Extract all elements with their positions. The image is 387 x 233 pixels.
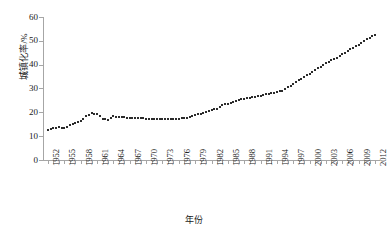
data-point (240, 98, 242, 100)
data-point (55, 127, 57, 129)
x-tick-label-1988: 1988 (248, 149, 257, 166)
data-point (172, 118, 174, 120)
data-point (249, 97, 251, 99)
data-point (369, 37, 371, 39)
data-point (58, 126, 60, 128)
y-tick-label-40: 40 (16, 60, 38, 69)
plot-area (44, 17, 379, 160)
data-point (366, 38, 368, 40)
data-point (279, 90, 281, 92)
data-point (238, 99, 240, 101)
x-tick (195, 161, 196, 164)
data-point (341, 53, 343, 55)
data-point (224, 103, 226, 105)
data-point (221, 104, 223, 106)
data-point (96, 113, 98, 115)
data-point (167, 118, 169, 120)
y-tick-label-50: 50 (16, 36, 38, 45)
data-point (219, 106, 221, 108)
data-point (123, 116, 125, 118)
x-tick (261, 161, 262, 164)
data-point (216, 108, 218, 110)
data-point (339, 55, 341, 57)
x-tick (64, 161, 65, 164)
data-point (61, 127, 63, 129)
y-tick-60 (39, 17, 43, 18)
x-tick (212, 161, 213, 164)
data-point (325, 62, 327, 64)
data-point (254, 96, 256, 98)
data-point (129, 117, 131, 119)
data-point (186, 117, 188, 119)
data-point (194, 114, 196, 116)
data-point (300, 78, 302, 80)
x-tick (146, 161, 147, 164)
data-point (344, 52, 346, 54)
data-point (281, 90, 283, 92)
data-point (82, 118, 84, 120)
data-point (178, 118, 180, 120)
x-tick (244, 161, 245, 164)
x-tick (277, 161, 278, 164)
data-point (314, 69, 316, 71)
data-point (309, 73, 311, 75)
y-tick-50 (39, 41, 43, 42)
x-tick (48, 161, 49, 164)
data-point (374, 34, 376, 36)
data-point (137, 117, 139, 119)
data-point (355, 45, 357, 47)
data-point (99, 115, 101, 117)
x-tick-label-1994: 1994 (281, 149, 290, 166)
data-point (227, 103, 229, 105)
data-point (320, 66, 322, 68)
x-tick (228, 161, 229, 164)
data-point (164, 118, 166, 120)
data-point (170, 118, 172, 120)
data-point (104, 118, 106, 120)
x-tick (179, 161, 180, 164)
x-tick (130, 161, 131, 164)
data-point (175, 118, 177, 120)
data-point (292, 83, 294, 85)
data-point (243, 98, 245, 100)
data-point (303, 76, 305, 78)
data-point (145, 118, 147, 120)
data-point (159, 118, 161, 120)
data-point (246, 97, 248, 99)
x-tick-label-1958: 1958 (85, 149, 94, 166)
data-point (148, 118, 150, 120)
x-tick-label-1997: 1997 (297, 149, 306, 166)
y-tick-30 (39, 88, 43, 89)
data-point (213, 108, 215, 110)
data-point (93, 113, 95, 115)
x-tick (113, 161, 114, 164)
x-tick (97, 161, 98, 164)
data-point (202, 112, 204, 114)
x-tick (326, 161, 327, 164)
x-tick-label-2009: 2009 (363, 149, 372, 166)
data-point (211, 109, 213, 111)
data-point (80, 120, 82, 122)
data-point (260, 95, 262, 97)
data-point (107, 119, 109, 121)
data-point (265, 93, 267, 95)
x-tick-label-1961: 1961 (101, 149, 110, 166)
data-point (298, 79, 300, 81)
y-tick-label-60: 60 (16, 13, 38, 22)
data-point (371, 35, 373, 37)
data-point (142, 117, 144, 119)
data-point (347, 50, 349, 52)
data-point (317, 67, 319, 69)
data-point (115, 116, 117, 118)
y-tick-20 (39, 112, 43, 113)
x-tick (359, 161, 360, 164)
x-tick-label-1970: 1970 (150, 149, 159, 166)
data-point (52, 127, 54, 129)
data-point (235, 100, 237, 102)
data-point (181, 117, 183, 119)
data-point (276, 91, 278, 93)
data-point (131, 117, 133, 119)
data-point (322, 64, 324, 66)
data-point (91, 112, 93, 114)
data-point (140, 117, 142, 119)
